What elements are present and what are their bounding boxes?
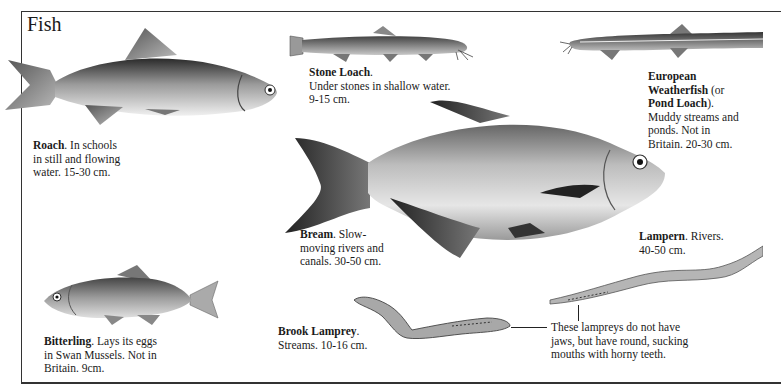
bitterling-caption: Bitterling. Lays its eggs in Swan Mussel… [44,335,157,376]
roach-name: Roach [33,139,64,151]
brook-lamprey-caption: Brook Lamprey. Streams. 10-16 cm. [278,325,367,352]
lampern-illustration [548,244,763,306]
roach-illustration [5,25,285,130]
weatherfish-name: Weatherfish [648,84,708,96]
bitterling-name: Bitterling [44,335,91,347]
weatherfish-illustration [560,22,763,64]
brook-lamprey-name: Brook Lamprey [278,325,356,337]
stone-loach-name: Stone Loach [309,66,370,78]
lamprey-note: These lampreys do not have jaws, but hav… [551,321,688,362]
stone-loach-illustration [288,24,478,66]
bream-name: Bream [300,228,333,240]
brook-lamprey-illustration [352,294,512,342]
bitterling-illustration [42,263,222,328]
bream-caption: Bream. Slow- moving rivers and canals. 3… [300,228,384,269]
roach-caption: Roach. In schools in still and flowing w… [33,139,120,180]
brook-lamprey-pointer [511,327,547,328]
lampern-name: Lampern [639,230,685,242]
lampern-pointer [578,305,579,321]
